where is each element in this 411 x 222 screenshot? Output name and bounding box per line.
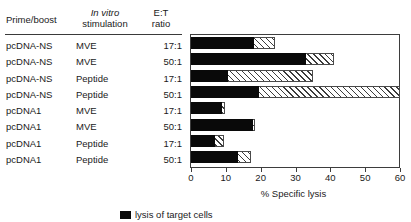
cell-stimulation: MVE (76, 38, 97, 54)
bar-series-container (191, 35, 400, 167)
cell-prime-boost: pcDNA1 (6, 103, 41, 119)
header-divider-rule (5, 34, 182, 35)
table-row: pcDNA-NSPeptide17:1 (0, 71, 186, 87)
horizontal-bar-chart: 0102030405060 (186, 30, 401, 172)
cell-prime-boost: pcDNA1 (6, 152, 41, 168)
x-axis-tick-label: 0 (188, 172, 193, 183)
x-axis-tick (330, 168, 331, 172)
x-axis-label: % Specific lysis (186, 188, 401, 199)
bar-row (191, 51, 400, 67)
x-axis-tick (261, 168, 262, 172)
legend-swatch-icon (120, 211, 131, 219)
cell-prime-boost: pcDNA1 (6, 136, 41, 152)
bar-specific-lysis (191, 53, 306, 65)
table-body: pcDNA-NSMVE17:1pcDNA-NSMVE50:1pcDNA-NSPe… (0, 38, 186, 168)
cell-et-ratio: 17:1 (141, 103, 182, 119)
cell-et-ratio: 50:1 (141, 87, 182, 103)
x-axis-tick-label: 10 (221, 172, 232, 183)
column-header-stimulation: stimulation (74, 18, 136, 29)
cell-prime-boost: pcDNA-NS (6, 54, 52, 70)
column-header-prime-boost: Prime/boost (6, 14, 57, 25)
column-header-et-line2: ratio (140, 18, 182, 29)
x-axis-tick-label: 60 (395, 172, 406, 183)
x-axis-tick (226, 168, 227, 172)
table-header-row: Prime/boost In vitro stimulation E:T rat… (0, 4, 186, 32)
column-header-et-line1: E:T (140, 7, 182, 18)
cell-et-ratio: 50:1 (141, 152, 182, 168)
cell-stimulation: Peptide (76, 152, 108, 168)
table-row: pcDNA1Peptide17:1 (0, 136, 186, 152)
x-axis-tick-label: 50 (360, 172, 371, 183)
table-row: pcDNA-NSMVE50:1 (0, 54, 186, 70)
bar-row (191, 68, 400, 84)
bar-specific-lysis (191, 119, 253, 131)
column-header-in-vitro-italic: In vitro (74, 7, 136, 18)
chart-legend: lysis of target cells (120, 207, 411, 222)
bar-specific-lysis (191, 135, 215, 147)
table-row: pcDNA-NSPeptide50:1 (0, 87, 186, 103)
cell-stimulation: MVE (76, 119, 97, 135)
cell-prime-boost: pcDNA-NS (6, 38, 52, 54)
x-axis-tick (365, 168, 366, 172)
cell-prime-boost: pcDNA-NS (6, 71, 52, 87)
legend-label: lysis of target cells (135, 209, 213, 220)
bar-specific-lysis (191, 37, 254, 49)
cell-stimulation: MVE (76, 103, 97, 119)
cell-stimulation: Peptide (76, 136, 108, 152)
data-table: Prime/boost In vitro stimulation E:T rat… (0, 0, 186, 180)
bar-row (191, 133, 400, 149)
legend-item: lysis of target cells (120, 209, 213, 220)
cell-stimulation: MVE (76, 54, 97, 70)
bar-row (191, 84, 400, 100)
table-row: pcDNA-NSMVE17:1 (0, 38, 186, 54)
cell-prime-boost: pcDNA1 (6, 119, 41, 135)
x-axis-tick-label: 40 (325, 172, 336, 183)
x-axis-tick-label: 30 (290, 172, 301, 183)
bar-specific-lysis (191, 70, 228, 82)
cell-prime-boost: pcDNA-NS (6, 87, 52, 103)
x-axis-tick (400, 168, 401, 172)
table-row: pcDNA1Peptide50:1 (0, 152, 186, 168)
x-axis-tick (296, 168, 297, 172)
column-header-in-vitro-stimulation: In vitro stimulation (74, 7, 136, 29)
bar-specific-lysis (191, 86, 259, 98)
cell-et-ratio: 17:1 (141, 71, 182, 87)
cell-et-ratio: 50:1 (141, 54, 182, 70)
cell-et-ratio: 17:1 (141, 38, 182, 54)
bar-specific-lysis (191, 151, 238, 163)
x-axis-tick-label: 20 (255, 172, 266, 183)
x-axis-tick (191, 168, 192, 172)
cell-stimulation: Peptide (76, 87, 108, 103)
bar-row (191, 35, 400, 51)
table-row: pcDNA1MVE50:1 (0, 119, 186, 135)
bar-row (191, 116, 400, 132)
cell-stimulation: Peptide (76, 71, 108, 87)
table-row: pcDNA1MVE17:1 (0, 103, 186, 119)
cell-et-ratio: 50:1 (141, 119, 182, 135)
bar-specific-lysis (191, 102, 222, 114)
column-header-et-ratio: E:T ratio (140, 7, 182, 29)
cell-et-ratio: 17:1 (141, 136, 182, 152)
bar-row (191, 100, 400, 116)
bar-row (191, 149, 400, 165)
